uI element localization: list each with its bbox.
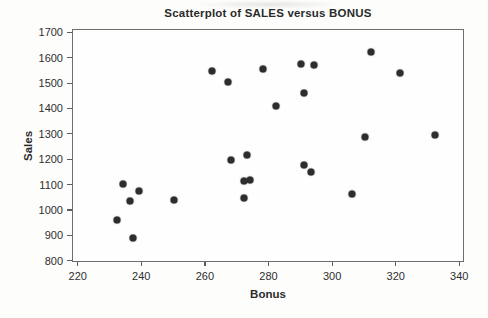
y-tick-label: 1700 [0,26,63,38]
scatterplot-figure: Scatterplot of SALES versus BONUS Sales … [0,0,488,318]
x-tick-mark [459,262,460,266]
data-point [311,61,318,68]
data-point [301,161,308,168]
y-tick-mark [67,235,72,236]
x-tick-label: 240 [132,270,150,282]
x-tick-label: 280 [259,270,277,282]
data-point [136,188,143,195]
data-point [301,89,308,96]
y-tick-mark [67,133,72,134]
y-tick-mark [67,209,72,210]
y-tick-mark [67,108,72,109]
data-point [272,102,279,109]
data-point [349,190,356,197]
data-point [225,79,232,86]
x-tick-label: 320 [387,270,405,282]
y-tick-label: 1100 [0,179,63,191]
data-point [307,169,314,176]
x-tick-label: 340 [450,270,468,282]
data-point [129,234,136,241]
x-tick-mark [332,262,333,266]
y-tick-label: 1300 [0,128,63,140]
y-tick-label: 1600 [0,52,63,64]
data-point [247,177,254,184]
x-axis-title: Bonus [72,288,464,300]
data-point [241,194,248,201]
x-tick-label: 220 [69,270,87,282]
y-tick-label: 1000 [0,204,63,216]
data-point [431,131,438,138]
data-point [209,68,216,75]
y-tick-label: 900 [0,229,63,241]
data-point [228,156,235,163]
y-tick-label: 1500 [0,77,63,89]
x-tick-label: 300 [323,270,341,282]
y-tick-label: 1200 [0,153,63,165]
data-point [361,133,368,140]
y-tick-mark [67,57,72,58]
x-tick-mark [141,262,142,266]
y-tick-mark [67,32,72,33]
data-point [368,48,375,55]
data-point [113,216,120,223]
plot-area [72,29,464,262]
data-point [396,70,403,77]
y-tick-label: 800 [0,255,63,267]
y-tick-mark [67,159,72,160]
y-tick-label: 1400 [0,102,63,114]
data-point [260,65,267,72]
chart-title: Scatterplot of SALES versus BONUS [72,7,464,19]
data-point [298,61,305,68]
x-tick-mark [77,262,78,266]
data-point [171,197,178,204]
x-tick-label: 260 [196,270,214,282]
y-tick-mark [67,260,72,261]
x-tick-mark [268,262,269,266]
x-tick-mark [395,262,396,266]
y-tick-mark [67,184,72,185]
x-tick-mark [204,262,205,266]
y-tick-mark [67,83,72,84]
data-point [126,197,133,204]
data-point [120,181,127,188]
data-point [244,151,251,158]
